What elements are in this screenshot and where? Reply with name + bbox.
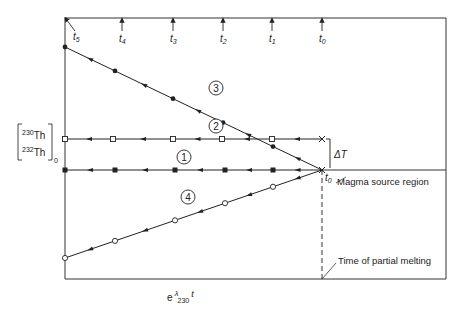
time-marker-t5: t5 [66,19,80,43]
data-point-filled-dot [63,45,68,50]
series-line [65,47,322,170]
series-label-3: 3 [209,81,223,95]
direction-arrow-icon [194,108,201,114]
data-point-open-circle [270,184,275,189]
data-point-open-square [270,137,275,142]
direction-arrow-icon [197,209,204,215]
series-label-4: 4 [181,190,195,204]
svg-text:232Th: 232Th [22,146,45,158]
data-point-filled-square [173,168,178,173]
time-marker-t3: t3 [170,20,177,45]
partial-melting-leader [322,263,336,279]
svg-text:eλ230t: eλ230t [167,289,194,304]
svg-text:2: 2 [213,121,219,132]
time-marker-label: t3 [170,33,177,45]
direction-arrow-icon [295,168,301,172]
svg-text:4: 4 [185,192,191,203]
partial-melting-label: Time of partial melting [338,255,431,266]
svg-text:3: 3 [213,83,219,94]
direction-arrow-icon [86,56,93,62]
direction-arrow-icon [195,137,201,141]
data-point-filled-square [63,168,68,173]
series-3 [63,45,322,170]
time-marker-label: t4 [119,33,126,45]
time-marker-t0: t0 [319,20,326,45]
time-marker-label: t5 [73,31,80,43]
direction-arrow-icon [244,131,251,137]
series-layer [62,45,325,261]
direction-arrow-icon [142,228,149,234]
time-marker-label: t1 [269,33,276,45]
series-line [65,170,322,258]
time-marker-t2: t2 [220,20,227,45]
data-point-filled-dot [171,96,176,101]
time-markers: t5t4t3t2t1t0 [66,19,326,45]
data-point-open-square [63,137,68,142]
svg-text:0: 0 [54,157,58,164]
series-2 [63,136,326,142]
data-point-open-circle [112,238,117,243]
arrow-icon [66,19,75,31]
data-point-filled-square [271,168,276,173]
origin-t0-label: t0 [325,172,332,184]
data-point-open-square [220,137,225,142]
data-point-filled-square [223,168,228,173]
time-marker-label: t0 [319,33,326,45]
direction-arrow-icon [244,137,250,141]
data-point-filled-dot [113,69,118,74]
series-4 [62,170,322,261]
direction-arrow-icon [197,168,203,172]
direction-arrow-icon [294,137,300,141]
svg-text:1: 1 [181,152,187,163]
direction-arrow-icon [246,168,252,172]
time-marker-t4: t4 [119,20,126,45]
direction-arrow-icon [246,192,253,198]
data-point-filled-square [113,168,118,173]
direction-arrow-icon [294,176,301,182]
magma-source-label: Magma source region [337,176,429,187]
delta-t-label: ΔT [333,149,348,160]
data-point-filled-dot [271,144,276,149]
series-labels: 1234 [177,81,223,204]
direction-arrow-icon [294,155,301,161]
delta-t-bracket [326,139,330,168]
data-point-open-circle [172,218,177,223]
series-1 [63,168,323,173]
series-label-1: 1 [177,150,191,164]
data-point-open-circle [62,255,67,260]
direction-arrow-icon [142,168,148,172]
series-label-2: 2 [209,119,223,133]
data-point-open-square [111,137,116,142]
time-marker-label: t2 [220,33,227,45]
direction-arrow-icon [87,168,93,172]
direction-arrow-icon [86,137,92,141]
frame [65,18,446,279]
direction-arrow-icon [140,137,146,141]
time-marker-t1: t1 [269,20,276,45]
data-point-open-circle [222,201,227,206]
svg-text:230Th: 230Th [22,129,45,141]
y-axis-label: 230Th 232Th 0 [18,124,58,164]
data-point-open-square [171,137,176,142]
direction-arrow-icon [140,82,147,88]
direction-arrow-icon [87,247,94,253]
isotope-evolution-diagram: t5t4t3t2t1t0 1234 ΔT t0 Magma source reg… [0,0,455,311]
x-axis-label: eλ230t [167,289,194,304]
